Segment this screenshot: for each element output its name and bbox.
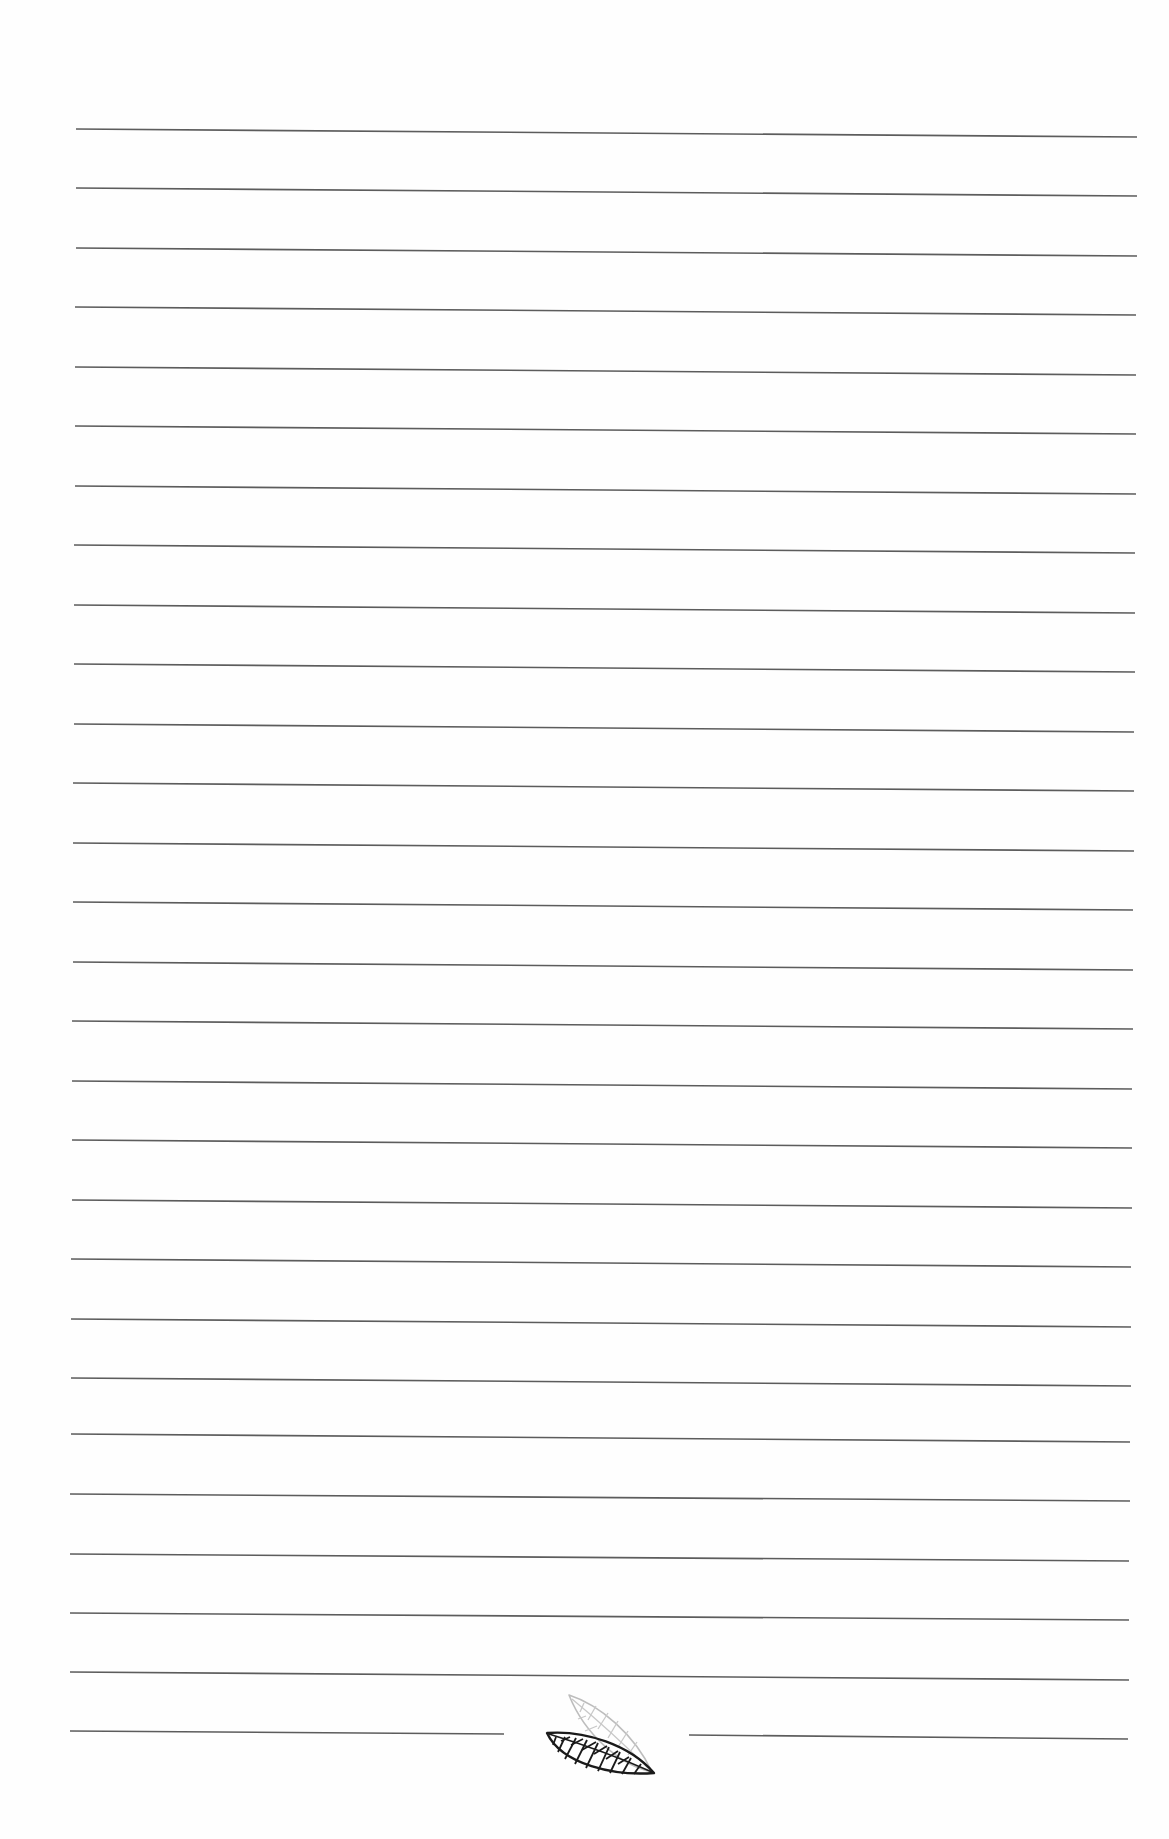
leaf-ornament: [0, 0, 1169, 1839]
notebook-page: [0, 0, 1169, 1839]
dark-leaf-icon: [547, 1733, 654, 1774]
